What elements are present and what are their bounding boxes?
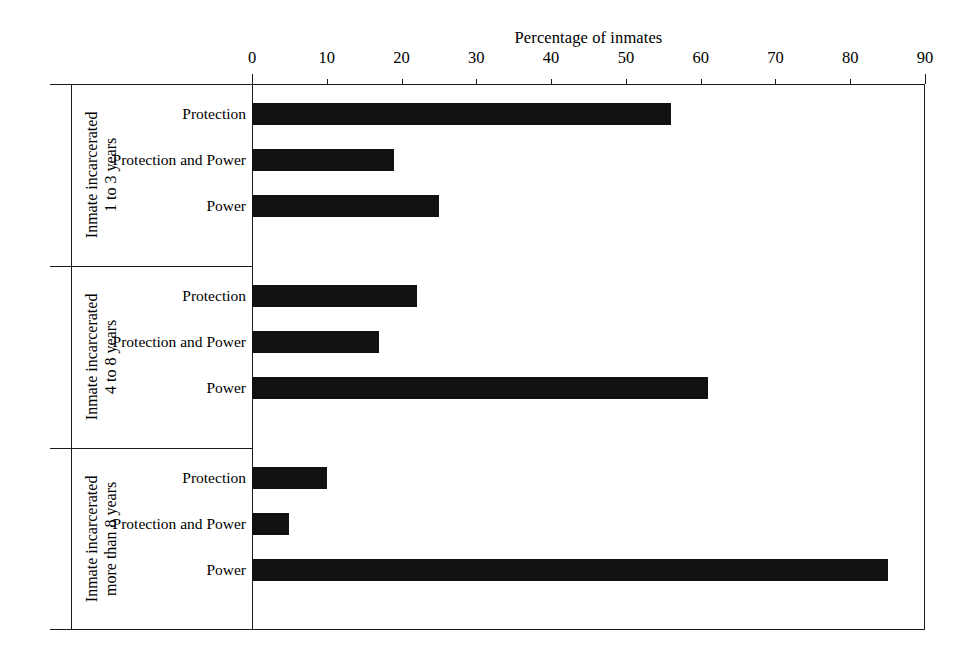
category-gutter: Inmate incarcerated1 to 3 yearsProtectio… [50, 84, 252, 630]
x-axis-tick-labels: 0102030405060708090 [0, 48, 975, 70]
bar [252, 377, 708, 399]
category-label: Protection and Power [57, 151, 252, 169]
bar [252, 149, 394, 171]
x-tick-mark-90 [925, 74, 926, 84]
bar [252, 513, 289, 535]
x-tick-label-70: 70 [767, 48, 784, 68]
bar [252, 559, 888, 581]
x-axis-title: Percentage of inmates [252, 28, 925, 48]
category-label: Power [57, 379, 252, 397]
x-tick-label-20: 20 [393, 48, 410, 68]
x-tick-label-40: 40 [543, 48, 560, 68]
bar [252, 195, 439, 217]
group-title-line1: Inmate incarcerated [83, 112, 102, 239]
x-tick-label-60: 60 [692, 48, 709, 68]
category-label: Protection [57, 105, 252, 123]
x-tick-label-50: 50 [618, 48, 635, 68]
x-tick-label-0: 0 [248, 48, 256, 68]
group-title-line2: 1 to 3 years [102, 112, 121, 239]
group-title-line2: 4 to 8 years [102, 294, 121, 421]
group-title-line2: more than 8 years [102, 476, 121, 603]
group-title-line1: Inmate incarcerated [83, 476, 102, 603]
x-tick-label-80: 80 [842, 48, 859, 68]
bar [252, 285, 417, 307]
x-tick-mark-0 [252, 74, 253, 84]
bar [252, 331, 379, 353]
x-tick-label-90: 90 [917, 48, 934, 68]
category-label: Power [57, 561, 252, 579]
category-label: Protection and Power [57, 515, 252, 533]
category-label: Protection and Power [57, 333, 252, 351]
group-title-text: Inmate incarcerated1 to 3 years [83, 112, 121, 239]
group-title-text: Inmate incarceratedmore than 8 years [83, 476, 121, 603]
bar-chart: Percentage of inmates 010203040506070809… [0, 0, 975, 654]
bar [252, 467, 327, 489]
bars-layer [252, 84, 925, 630]
x-tick-label-10: 10 [319, 48, 336, 68]
category-label: Protection [57, 287, 252, 305]
x-tick-label-30: 30 [468, 48, 485, 68]
bar [252, 103, 671, 125]
group-title-line1: Inmate incarcerated [83, 294, 102, 421]
category-label: Protection [57, 469, 252, 487]
group-title-text: Inmate incarcerated4 to 8 years [83, 294, 121, 421]
category-label: Power [57, 197, 252, 215]
